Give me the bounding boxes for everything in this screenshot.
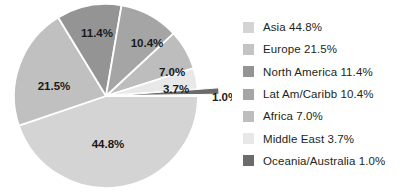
legend-swatch-europe	[243, 44, 254, 55]
legend-item-europe[interactable]: Europe 21.5%	[243, 38, 413, 60]
legend-swatch-lat-am-caribb	[243, 89, 254, 100]
pie-chart-figure: 7.0%3.7%1.0%44.8%21.5%11.4%10.4% Asia 44…	[0, 0, 413, 192]
legend-swatch-middle-east	[243, 133, 254, 144]
legend-item-north-america[interactable]: North America 11.4%	[243, 61, 413, 83]
legend-label-oceania-australia: Oceania/Australia 1.0%	[263, 155, 385, 167]
legend-item-middle-east[interactable]: Middle East 3.7%	[243, 127, 413, 149]
pie-slice-label-north-america: 11.4%	[81, 27, 113, 39]
pie-chart-area: 7.0%3.7%1.0%44.8%21.5%11.4%10.4%	[0, 0, 232, 192]
legend-label-asia: Asia 44.8%	[263, 21, 322, 33]
legend-label-africa: Africa 7.0%	[263, 110, 323, 122]
pie-slice-group	[14, 4, 219, 188]
legend-swatch-oceania-australia	[243, 155, 254, 166]
pie-slice-label-europe: 21.5%	[38, 80, 71, 92]
pie-slice-label-africa: 7.0%	[159, 66, 185, 78]
chart-legend: Asia 44.8%Europe 21.5%North America 11.4…	[243, 16, 413, 172]
legend-label-europe: Europe 21.5%	[263, 43, 337, 55]
legend-label-lat-am-caribb: Lat Am/Caribb 10.4%	[263, 88, 374, 100]
legend-swatch-asia	[243, 22, 254, 33]
legend-label-north-america: North America 11.4%	[263, 66, 373, 78]
pie-slice-label-asia: 44.8%	[92, 138, 125, 150]
legend-item-asia[interactable]: Asia 44.8%	[243, 16, 413, 38]
legend-item-lat-am-caribb[interactable]: Lat Am/Caribb 10.4%	[243, 83, 413, 105]
legend-swatch-north-america	[243, 66, 254, 77]
legend-swatch-africa	[243, 111, 254, 122]
pie-slice-label-lat-am-caribb: 10.4%	[131, 37, 164, 49]
legend-label-middle-east: Middle East 3.7%	[263, 133, 354, 145]
pie-chart-svg: 7.0%3.7%1.0%44.8%21.5%11.4%10.4%	[0, 0, 232, 192]
legend-item-africa[interactable]: Africa 7.0%	[243, 105, 413, 127]
legend-item-oceania-australia[interactable]: Oceania/Australia 1.0%	[243, 150, 413, 172]
pie-slice-label-oceania-australia: 1.0%	[212, 91, 232, 103]
pie-slice-label-middle-east: 3.7%	[163, 83, 189, 95]
